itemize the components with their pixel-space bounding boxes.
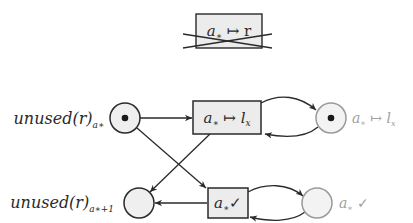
svg-text:a∗ ↦ lx: a∗ ↦ lx <box>203 109 250 128</box>
token-icon <box>328 115 335 122</box>
transition-check: a∗✓ <box>208 188 248 218</box>
transition-label-rest: ↦ l <box>219 109 246 127</box>
place-label-main: a <box>339 195 347 211</box>
transition-assign-lx: a∗ ↦ lx <box>193 101 261 134</box>
arc-t1-p2 <box>261 97 316 110</box>
place-label-sub: a∗+1 <box>89 204 114 214</box>
place-label-rest-sub: x <box>391 119 396 128</box>
place-label-sub: a∗ <box>93 120 104 130</box>
arc-t2-p4 <box>248 186 303 196</box>
arc-p2-t1 <box>265 127 318 136</box>
place-label-rest: ↦ l <box>366 110 391 126</box>
place-label-main: unused(r) <box>14 109 93 128</box>
svg-text:unused(r)a∗: unused(r)a∗ <box>14 109 104 130</box>
place-a-assigned-lx: a∗ ↦ lx <box>316 103 396 133</box>
svg-text:a∗ ✓: a∗ ✓ <box>339 195 369 213</box>
token-icon <box>122 115 129 122</box>
petri-net-diagram: a∗ ↦ r unused(r)a∗ a∗ ↦ lx a∗ ↦ lx <box>0 0 413 223</box>
disabled-transition-label-main: a <box>207 22 216 40</box>
transition-label-rest-sub: x <box>245 118 250 128</box>
place-label-main: a <box>352 110 360 126</box>
place-a-checked: a∗ ✓ <box>302 188 369 218</box>
place-unused-a: unused(r)a∗ <box>14 103 140 133</box>
svg-text:a∗ ↦ lx: a∗ ↦ lx <box>352 110 396 128</box>
place-label-main: unused(r) <box>10 193 89 212</box>
transition-label-main: a <box>214 194 223 212</box>
transition-label-rest: ✓ <box>229 194 242 212</box>
place-label-rest: ✓ <box>353 195 369 211</box>
place-circle <box>302 188 332 218</box>
arc-p1-t2 <box>137 128 206 188</box>
disabled-transition: a∗ ↦ r <box>183 14 272 48</box>
svg-text:unused(r)a∗+1: unused(r)a∗+1 <box>10 193 114 214</box>
place-circle <box>124 188 154 218</box>
place-unused-a-plus-1: unused(r)a∗+1 <box>10 188 154 218</box>
arc-p4-t2 <box>250 212 305 220</box>
transition-label-main: a <box>203 109 212 127</box>
